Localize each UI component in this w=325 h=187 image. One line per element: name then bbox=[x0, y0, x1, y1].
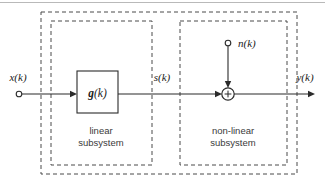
block-diagram-figure: x(k) s(k) n(k) y(k) g(k) linear subsyste… bbox=[0, 0, 325, 187]
output-arrowhead bbox=[308, 91, 315, 97]
noise-terminal-node bbox=[225, 40, 231, 46]
linear-subsystem-label-line1: linear bbox=[89, 125, 112, 136]
linear-subsystem-label-line2: subsystem bbox=[78, 137, 123, 148]
input-arrowhead bbox=[70, 91, 77, 97]
nonlinear-subsystem-label-line1: non-linear bbox=[212, 125, 254, 136]
output-signal-label: y(k) bbox=[295, 71, 313, 84]
noise-signal-label: n(k) bbox=[238, 37, 256, 50]
intermediate-arrowhead bbox=[215, 91, 222, 97]
noise-arrowhead bbox=[225, 81, 231, 88]
intermediate-signal-label: s(k) bbox=[154, 71, 171, 84]
input-signal-label: x(k) bbox=[8, 71, 26, 84]
g-block-argument: (k) bbox=[94, 87, 107, 100]
diagram-canvas: x(k) s(k) n(k) y(k) g(k) linear subsyste… bbox=[0, 0, 325, 187]
input-terminal-node bbox=[16, 91, 22, 97]
g-block-label: g(k) bbox=[87, 87, 107, 100]
nonlinear-subsystem-label-line2: subsystem bbox=[210, 137, 255, 148]
